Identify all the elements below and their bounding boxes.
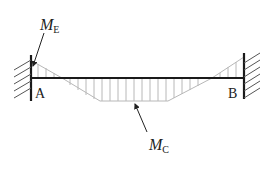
support-a-label: A (35, 86, 46, 101)
end-moment-arrow (33, 33, 44, 66)
beam-diagram: A B ME MC (0, 0, 266, 169)
center-moment-arrow (135, 104, 147, 132)
right-fixed-support (244, 53, 260, 99)
support-b-label: B (228, 86, 237, 101)
left-fixed-support (14, 55, 31, 101)
center-moment-label: MC (148, 136, 169, 155)
end-moment-label: ME (39, 16, 59, 35)
